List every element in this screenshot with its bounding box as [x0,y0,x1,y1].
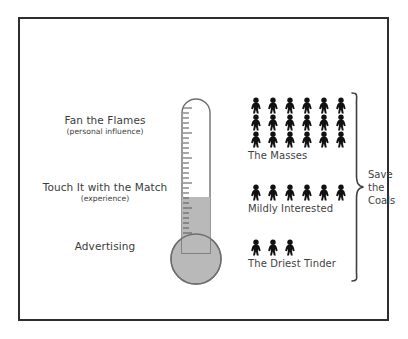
person-icon [299,184,315,201]
person-icon [265,97,281,114]
stage-label-advertising: Advertising [38,241,172,253]
audience-group-the-masses: The Masses [248,97,349,161]
person-icon [282,114,298,131]
person-icon [265,184,281,201]
person-icon [333,131,349,148]
person-icon [248,239,264,256]
person-icon [265,114,281,131]
people-row [248,97,349,114]
stage-label-fan-the-flames: Fan the Flames (personal influence) [38,115,172,136]
caption-line-3: Coals [368,195,395,208]
audience-group-the-driest-tinder: The Driest Tinder [248,239,336,269]
curly-brace [350,91,366,283]
stage-label-sub: (experience) [26,195,184,204]
person-icon [333,97,349,114]
stage-label-main: Fan the Flames [38,115,172,127]
caption-line-1: Save [368,169,395,182]
person-icon [248,114,264,131]
stage-label-main: Advertising [38,241,172,253]
audience-group-label: The Masses [248,150,349,161]
person-icon [248,184,264,201]
stage-label-main: Touch It with the Match [26,182,184,194]
figure-border: Fan the Flames (personal influence) Touc… [18,17,389,321]
save-the-coals-caption: Save the Coals [368,169,395,207]
person-icon [248,131,264,148]
figure-canvas: Fan the Flames (personal influence) Touc… [0,0,408,339]
person-icon [316,184,332,201]
people-row [248,114,349,131]
person-icon [265,239,281,256]
person-icon [282,97,298,114]
people-row [248,184,349,201]
stage-label-sub: (personal influence) [38,128,172,137]
caption-line-2: the [368,182,395,195]
person-icon [282,184,298,201]
person-icon [248,97,264,114]
person-icon [316,97,332,114]
person-icon [333,184,349,201]
people-row [248,131,349,148]
people-icon-grid [248,184,349,201]
audience-group-mildly-interested: Mildly Interested [248,184,349,214]
audience-group-label: Mildly Interested [248,203,349,214]
stage-label-touch-it-with-the-match: Touch It with the Match (experience) [26,182,184,203]
people-icon-grid [248,97,349,148]
person-icon [316,131,332,148]
person-icon [299,114,315,131]
person-icon [299,97,315,114]
people-row [248,239,336,256]
person-icon [282,239,298,256]
people-icon-grid [248,239,336,256]
person-icon [333,114,349,131]
person-icon [299,131,315,148]
person-icon [265,131,281,148]
person-icon [316,114,332,131]
thermometer-icon [170,93,222,289]
audience-group-label: The Driest Tinder [248,258,336,269]
person-icon [282,131,298,148]
